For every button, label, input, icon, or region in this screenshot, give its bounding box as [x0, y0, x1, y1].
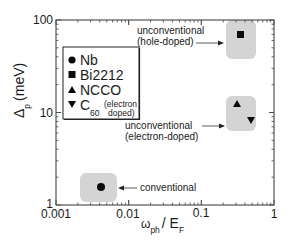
y-tick-label: 100	[33, 13, 53, 27]
data-point-bi2212	[237, 31, 244, 38]
data-point-nb	[97, 183, 105, 191]
legend-note-doped: doped)	[108, 108, 135, 118]
x-tick-label: 0.001	[41, 207, 71, 221]
legend-label-c60: C	[80, 97, 90, 113]
arrowhead-icon	[219, 124, 225, 129]
legend-square-icon	[69, 71, 76, 78]
legend: Nb Bi2212 NCCO C 60 (electron doped)	[63, 47, 140, 120]
x-tick-label: 1	[271, 207, 278, 221]
highlight-box-hole-doped	[226, 20, 256, 59]
x-axis-label: ωph/ EF	[141, 215, 184, 235]
highlight-box-electron-doped	[226, 96, 256, 131]
chart: 100 10 1 0.001 0.01 0.1 1 ωph/ EF Δp(meV…	[0, 0, 289, 246]
x-tick-label: 0.01	[116, 207, 140, 221]
annotation-electron-doped-line1: unconventional	[125, 120, 192, 131]
arrowhead-icon	[218, 41, 224, 46]
legend-label-bi2212: Bi2212	[80, 67, 124, 83]
y-tick-label: 10	[40, 106, 54, 120]
svg-text:Δp(meV): Δp(meV)	[11, 63, 32, 118]
annotation-conventional: conventional	[140, 182, 196, 193]
legend-label-nb: Nb	[80, 52, 98, 68]
legend-label-ncco: NCCO	[80, 82, 121, 98]
x-tick-label: 0.1	[193, 206, 210, 220]
annotation-hole-doped-line1: unconventional	[137, 25, 204, 36]
legend-circle-icon	[68, 56, 75, 63]
annotation-electron-doped-line2: (electron-doped)	[125, 131, 198, 142]
arrowhead-icon	[118, 186, 124, 191]
y-axis-label: Δp(meV)	[11, 63, 32, 118]
legend-label-c60-sub: 60	[90, 108, 100, 118]
annotation-hole-doped-line2: (hole-doped)	[137, 36, 194, 47]
